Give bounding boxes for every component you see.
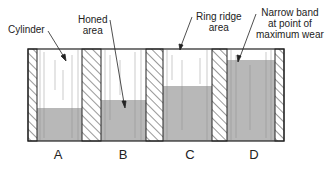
callout-ring-ridge-area: Ring ridge area [196, 11, 242, 33]
callout-text: area [196, 22, 242, 33]
callout-text: Cylinder [8, 24, 45, 35]
callout-text: at point of [256, 18, 324, 29]
callout-text: area [78, 25, 107, 36]
callout-text: Ring ridge [196, 11, 242, 22]
bore-d [227, 49, 275, 141]
panel-label-a: A [48, 147, 68, 162]
panel-label-d: D [244, 147, 264, 162]
callout-text: Narrow band [256, 7, 324, 18]
callout-text: maximum wear [256, 29, 324, 40]
callout-text: Honed [78, 14, 107, 25]
callout-narrow-band: Narrow band at point of maximum wear [256, 7, 324, 40]
bore-b [101, 49, 146, 141]
callout-honed-area: Honed area [78, 14, 107, 36]
panel-label-b: B [113, 147, 133, 162]
panel-label-c: C [180, 147, 200, 162]
bore-c [163, 49, 212, 141]
callout-cylinder: Cylinder [8, 24, 45, 35]
